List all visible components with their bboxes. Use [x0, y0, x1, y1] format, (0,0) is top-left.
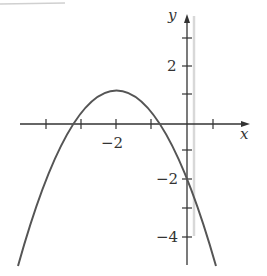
y-tick-label-neg2: −2	[156, 170, 178, 188]
x-tick-label-neg2: −2	[101, 134, 123, 152]
scan-artifact-line	[0, 3, 65, 4]
x-axis-label: x	[240, 125, 249, 143]
y-axis	[182, 14, 192, 265]
y-axis-arrow-icon	[184, 14, 190, 23]
x-axis	[20, 119, 250, 129]
y-axis-label: y	[167, 6, 177, 24]
parabola-curve	[18, 91, 216, 267]
graph: y x −2 2 −2 −4	[0, 0, 267, 276]
y-tick-label-2: 2	[167, 57, 177, 75]
y-tick-label-neg4: −4	[156, 228, 178, 246]
